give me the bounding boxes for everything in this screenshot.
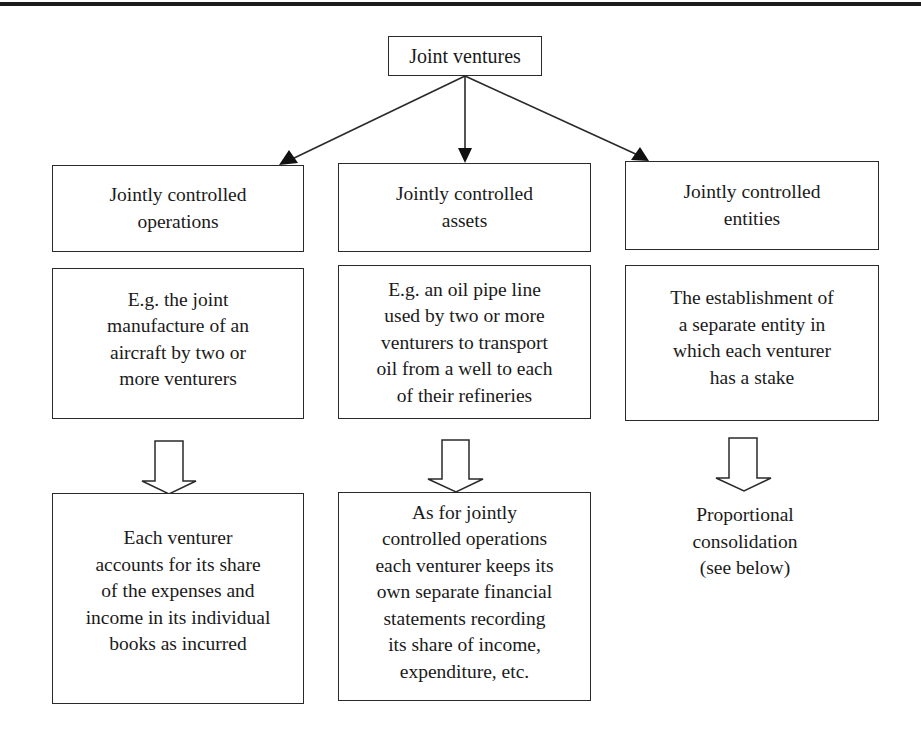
root-node-joint-ventures: Joint ventures [388,36,542,76]
root-label: Joint ventures [409,43,521,70]
example-operations-box: E.g. the joint manufacture of an aircraf… [52,268,304,419]
category-operations-box: Jointly controlled operations [52,165,304,252]
treatment-operations-text: Each venturer accounts for its share of … [86,525,271,658]
arrow-to-entities-icon [465,76,649,161]
category-operations-label: Jointly controlled operations [109,182,246,235]
block-arrow-entities-icon [716,438,771,491]
treatment-entities-text-block: Proportional consolidation (see below) [660,502,830,582]
treatment-entities-text: Proportional consolidation (see below) [692,504,797,578]
example-operations-text: E.g. the joint manufacture of an aircraf… [107,287,249,393]
category-entities-label: Jointly controlled entities [683,179,820,232]
example-entities-box: The establishment of a separate entity i… [625,265,879,421]
arrow-to-assets-icon [458,76,472,163]
treatment-assets-text: As for jointly controlled operations eac… [375,500,553,686]
category-assets-label: Jointly controlled assets [396,181,533,234]
arrow-to-operations-icon [279,76,465,165]
treatment-assets-box: As for jointly controlled operations eac… [338,492,591,701]
example-entities-text: The establishment of a separate entity i… [670,285,834,391]
category-assets-box: Jointly controlled assets [338,163,591,252]
example-assets-text: E.g. an oil pipe line used by two or mor… [377,277,553,410]
block-arrow-operations-icon [142,441,196,494]
treatment-operations-box: Each venturer accounts for its share of … [52,493,304,704]
example-assets-box: E.g. an oil pipe line used by two or mor… [338,265,591,419]
category-entities-box: Jointly controlled entities [625,161,879,250]
block-arrow-assets-icon [428,440,483,492]
